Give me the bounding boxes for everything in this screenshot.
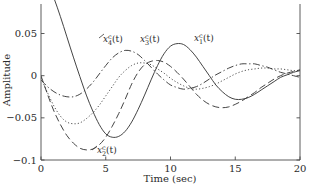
series-x1c: [41, 0, 300, 137]
y-tick-label: 0.05: [15, 28, 37, 39]
data-series-group: [41, 0, 300, 150]
figure-root: 05101520 0.050−0.05−0.1 Time (sec) Ampli…: [0, 0, 314, 186]
y-tick-label: 0: [31, 70, 37, 81]
tick-marks: [41, 34, 300, 160]
curve-label-x2c: x2c(t): [97, 144, 117, 158]
y-tick-label: −0.1: [13, 155, 37, 166]
series-x3c: [41, 63, 300, 124]
y-tick-label: −0.05: [6, 112, 37, 123]
series-x2c: [41, 60, 300, 149]
curve-annotations: x4c(t)x3c(t)x1c(t)x2c(t): [92, 32, 214, 158]
axes-frame: [41, 4, 300, 160]
x-tick-label: 5: [103, 163, 109, 174]
curve-label-x3c: x3c(t): [140, 33, 160, 47]
x-tick-label: 0: [38, 163, 44, 174]
line-chart: 05101520 0.050−0.05−0.1 Time (sec) Ampli…: [0, 0, 314, 186]
axes-box: [41, 4, 300, 160]
curve-label-x4c: x4c(t): [103, 33, 123, 47]
y-axis-title: Amplitude: [1, 54, 12, 107]
x-axis-title: Time (sec): [144, 173, 197, 184]
x-tick-label: 20: [294, 163, 307, 174]
curve-label-x1c: x1c(t): [194, 32, 214, 46]
x-tick-label: 15: [229, 163, 242, 174]
